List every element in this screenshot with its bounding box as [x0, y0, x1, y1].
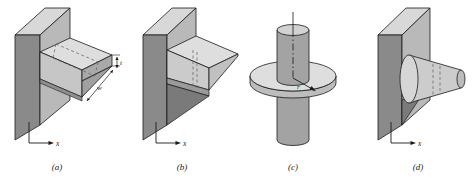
- fin-configurations-figure: t w x (a) x: [0, 0, 472, 178]
- panel-caption-a: (a): [52, 162, 63, 172]
- dim-label-r-c: r: [297, 83, 300, 91]
- figure-canvas: t w x (a) x: [0, 0, 472, 178]
- axis-label-x-b: x: [182, 139, 187, 148]
- axis-label-x-d: x: [417, 139, 422, 148]
- wall-side-face-b: [143, 35, 167, 140]
- dim-label-w-a: w: [97, 84, 102, 92]
- axis-label-x-a: x: [55, 139, 60, 148]
- wall-side-face-a: [15, 35, 40, 140]
- panel-caption-b: (b): [177, 162, 188, 172]
- wall-side-face-d: [378, 35, 402, 140]
- panel-caption-d: (d): [413, 162, 424, 172]
- tube-lower-body-c: [277, 95, 309, 146]
- cone-base-ellipse-d: [400, 55, 418, 103]
- cone-tip-ellipse-d: [457, 70, 465, 88]
- panel-caption-c: (c): [288, 162, 298, 172]
